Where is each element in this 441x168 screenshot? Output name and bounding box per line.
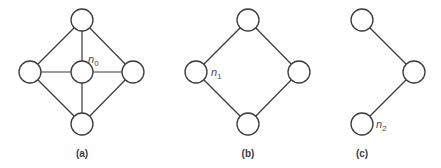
node-b-bottom [237,113,259,135]
node-a-right [122,61,144,83]
node-a-top [71,9,93,31]
node-c-bottom [351,113,373,135]
caption-c: (c) [356,148,368,159]
node-b-left [185,61,207,83]
node-label-n1: n1 [211,66,222,81]
panel-b: n1 (b) [185,9,310,159]
caption-b: (b) [242,148,255,159]
node-label-n2: n2 [376,118,387,133]
node-c-right [403,61,425,83]
node-b-right [288,61,310,83]
node-labels: n1 [211,66,222,81]
node-a-left [19,61,41,83]
nodes [351,9,425,135]
caption-a: (a) [76,148,88,159]
nodes [185,9,310,135]
graph-diagram: n0 (a) n1 (b) n2 (c) [0,0,441,168]
node-c-top [351,9,373,31]
panel-a: n0 (a) [19,9,144,159]
node-a-bottom [71,113,93,135]
panel-c: n2 (c) [351,9,425,159]
node-b-top [237,9,259,31]
node-labels: n2 [376,118,387,133]
nodes [19,9,144,135]
